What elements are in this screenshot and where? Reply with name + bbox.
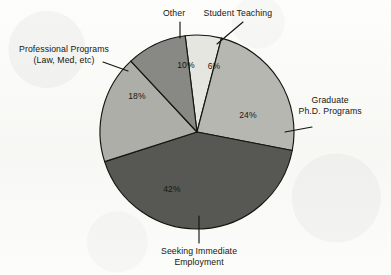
pie-slice-percent-professional-programs: 18% xyxy=(128,91,146,101)
callout-label-seeking-employment: Seeking ImmediateEmployment xyxy=(161,246,237,267)
chart-canvas: 6%24%42%18%10% Student TeachingGraduateP… xyxy=(0,0,391,275)
callout-line-2-graduate-phd: Ph.D. Programs xyxy=(299,106,362,117)
callout-line-1-seeking-employment: Seeking Immediate xyxy=(161,246,237,257)
callout-line-2-professional-programs: (Law, Med, etc) xyxy=(19,55,109,66)
callout-line-1-graduate-phd: Graduate xyxy=(299,95,362,106)
callout-line-1-professional-programs: Professional Programs xyxy=(19,44,109,55)
callout-line-1-other: Other xyxy=(163,8,185,19)
callout-line-1-student-teaching: Student Teaching xyxy=(204,8,273,19)
pie-slice-percent-other: 10% xyxy=(177,60,195,70)
callout-label-graduate-phd: GraduatePh.D. Programs xyxy=(299,95,362,116)
pie-slice-percent-student-teaching: 6% xyxy=(208,61,221,71)
callout-label-other: Other xyxy=(163,8,185,19)
callout-label-student-teaching: Student Teaching xyxy=(204,8,273,19)
pie-slices-group xyxy=(100,35,294,229)
pie-slice-percent-seeking-employment: 42% xyxy=(163,184,181,194)
callout-label-professional-programs: Professional Programs(Law, Med, etc) xyxy=(19,44,109,65)
pie-chart: 6%24%42%18%10% xyxy=(0,0,391,275)
pie-slice-percent-graduate-phd: 24% xyxy=(239,110,257,120)
callout-line-2-seeking-employment: Employment xyxy=(161,257,237,268)
